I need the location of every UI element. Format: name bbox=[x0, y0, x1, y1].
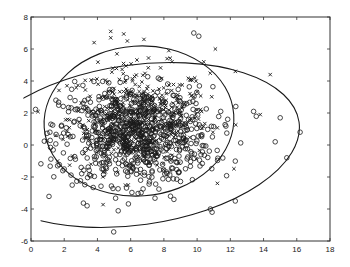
x-tick-label: 2 bbox=[62, 245, 67, 254]
x-tick-label: 12 bbox=[226, 245, 235, 254]
y-tick-label: 6 bbox=[24, 45, 29, 54]
y-tick-label: 2 bbox=[24, 109, 29, 118]
scatter-chart: 024681012141618 -6-4-202468 bbox=[0, 0, 350, 267]
data-points bbox=[33, 30, 302, 235]
x-tick-label: 16 bbox=[292, 245, 301, 254]
x-tick-label: 0 bbox=[29, 245, 34, 254]
y-tick-label: -4 bbox=[21, 205, 29, 214]
x-tick-label: 18 bbox=[326, 245, 335, 254]
y-tick-label: 4 bbox=[24, 77, 29, 86]
x-tick-label: 10 bbox=[193, 245, 202, 254]
y-tick-label: -2 bbox=[21, 173, 29, 182]
x-tick-label: 14 bbox=[259, 245, 268, 254]
y-tick-label: 8 bbox=[24, 13, 29, 22]
x-tick-label: 8 bbox=[162, 245, 167, 254]
x-tick-label: 4 bbox=[95, 245, 100, 254]
x-tick-label: 6 bbox=[128, 245, 133, 254]
y-tick-label: -6 bbox=[21, 237, 29, 246]
y-tick-label: 0 bbox=[24, 141, 29, 150]
